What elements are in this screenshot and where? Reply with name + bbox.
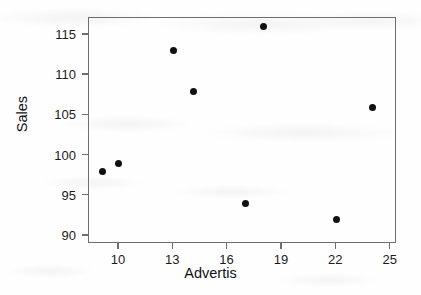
plot-area — [88, 17, 396, 243]
y-axis-tick-label: 90 — [36, 227, 76, 242]
data-point — [369, 104, 376, 111]
data-point — [190, 88, 197, 95]
y-axis-tick-label: 105 — [36, 107, 76, 122]
x-axis-tick — [335, 243, 336, 249]
x-axis-tick — [280, 243, 281, 249]
scatter-plot-figure: 9095100105110115 101316192225 Advertis S… — [0, 0, 421, 295]
y-axis-tick-label: 115 — [36, 26, 76, 41]
x-axis-tick — [226, 243, 227, 249]
y-axis-title: Sales — [14, 96, 30, 132]
y-axis-tick-label: 110 — [36, 67, 76, 82]
y-axis-tick-label: 100 — [36, 147, 76, 162]
x-axis-tick — [389, 243, 390, 249]
x-axis-tick — [172, 243, 173, 249]
data-point — [333, 216, 340, 223]
data-point — [242, 200, 249, 207]
data-point — [115, 160, 122, 167]
x-axis-title: Advertis — [0, 265, 421, 281]
data-point — [170, 47, 177, 54]
x-axis-tick — [117, 243, 118, 249]
y-axis-tick-label: 95 — [36, 187, 76, 202]
data-point — [260, 23, 267, 30]
data-point — [99, 168, 106, 175]
